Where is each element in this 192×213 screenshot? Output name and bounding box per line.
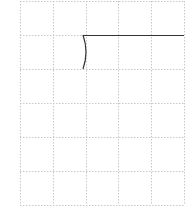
- canvas-background: [0, 0, 192, 213]
- diagram-canvas: [0, 0, 192, 213]
